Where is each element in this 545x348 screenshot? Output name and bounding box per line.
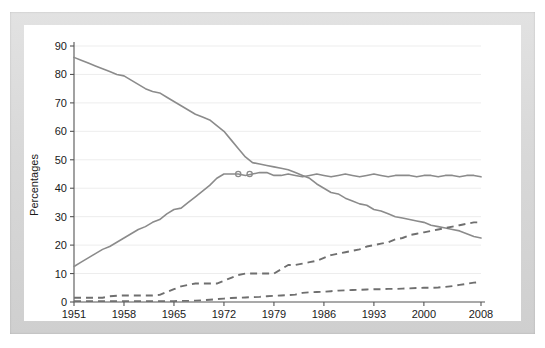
y-tick-label-80: 80 (55, 68, 67, 80)
y-tick-label-70: 70 (55, 97, 67, 109)
figure-paper: 0102030405060708090 19511958196519721979… (24, 25, 521, 321)
y-tick-marks-group (70, 46, 74, 302)
x-tick-label-1965: 1965 (162, 308, 186, 320)
series-lower-dashed (74, 282, 481, 301)
x-tick-marks-group (74, 302, 481, 306)
x-tick-label-1979: 1979 (262, 308, 286, 320)
x-tick-labels-group: 195119581965197219791986199320002008 (62, 308, 493, 320)
y-tick-label-10: 10 (55, 268, 67, 280)
y-axis-title: Percentages (28, 154, 40, 216)
y-tick-label-30: 30 (55, 211, 67, 223)
y-tick-label-20: 20 (55, 239, 67, 251)
series-upper-dashed (74, 222, 481, 297)
y-tick-label-50: 50 (55, 154, 67, 166)
y-tick-label-60: 60 (55, 125, 67, 137)
chart-svg: 0102030405060708090 19511958196519721979… (24, 25, 521, 321)
y-tick-label-90: 90 (55, 40, 67, 52)
y-tick-label-40: 40 (55, 182, 67, 194)
x-tick-label-2008: 2008 (469, 308, 493, 320)
data-series-group (74, 57, 481, 301)
x-tick-label-2000: 2000 (412, 308, 436, 320)
x-tick-label-1993: 1993 (362, 308, 386, 320)
y-tick-label-0: 0 (61, 296, 67, 308)
series-declining-solid (74, 57, 481, 238)
screenshot-page: 0102030405060708090 19511958196519721979… (0, 0, 545, 348)
line-chart: 0102030405060708090 19511958196519721979… (24, 25, 521, 321)
x-tick-label-1986: 1986 (312, 308, 336, 320)
gridlines-group (74, 46, 481, 274)
x-tick-label-1958: 1958 (112, 308, 136, 320)
x-tick-label-1951: 1951 (62, 308, 86, 320)
x-tick-label-1972: 1972 (212, 308, 236, 320)
y-tick-labels-group: 0102030405060708090 (55, 40, 67, 308)
series-rising-solid (74, 173, 481, 267)
